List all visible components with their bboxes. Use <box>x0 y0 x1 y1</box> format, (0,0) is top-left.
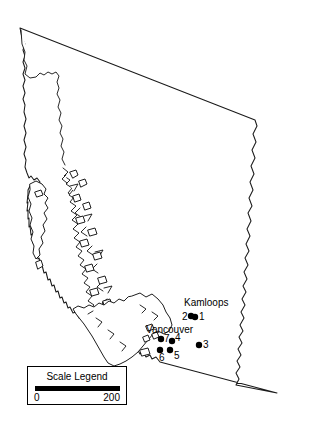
scale-bar <box>35 386 120 391</box>
scale-legend-title: Scale Legend <box>28 371 126 382</box>
map-figure: Kamloops Vancouver 1 2 3 4 5 6 7 Scale L… <box>0 0 309 446</box>
site-label-7: 7 <box>164 334 170 344</box>
scale-max-label: 200 <box>103 392 120 403</box>
site-label-5: 5 <box>174 351 180 361</box>
site-label-3: 3 <box>203 340 209 350</box>
site-dot-3[interactable] <box>196 342 202 348</box>
site-label-1: 1 <box>199 312 205 322</box>
scale-min-label: 0 <box>34 392 40 403</box>
haida-gwaii-south-islet <box>36 260 43 269</box>
site-dot-2[interactable] <box>188 313 194 319</box>
site-dot-5[interactable] <box>167 347 173 353</box>
site-label-6: 6 <box>159 353 165 363</box>
city-label-kamloops: Kamloops <box>184 298 228 308</box>
scale-legend: Scale Legend 0 200 <box>27 366 127 405</box>
site-label-4: 4 <box>175 333 181 343</box>
site-label-2: 2 <box>182 312 188 322</box>
